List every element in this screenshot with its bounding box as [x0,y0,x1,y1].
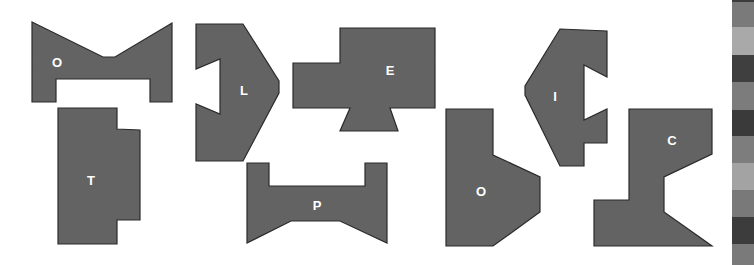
puzzle-piece-l[interactable]: L [196,24,279,161]
piece-shape[interactable] [293,28,435,131]
piece-label: O [52,55,62,70]
strip-segment [732,110,754,136]
piece-shape[interactable] [446,109,540,246]
piece-label: E [386,63,395,78]
strip-segment [732,82,754,110]
puzzle-piece-o-top[interactable]: O [32,22,172,102]
piece-shape[interactable] [525,29,607,166]
piece-shape[interactable] [594,109,712,246]
puzzle-piece-i[interactable]: I [525,29,607,166]
piece-shape[interactable] [58,108,140,244]
strip-segment [732,244,754,265]
strip-segment [732,27,754,55]
piece-label: O [476,184,486,199]
piece-label: T [87,173,95,188]
puzzle-canvas: OTLEPOIC [0,0,754,265]
strip-segment [732,217,754,244]
piece-label: I [553,89,557,104]
piece-shape[interactable] [196,24,279,161]
puzzle-piece-e[interactable]: E [293,28,435,131]
strip-segment [732,55,754,82]
puzzle-piece-t[interactable]: T [58,108,140,244]
strip-segment [732,2,754,27]
puzzle-pieces: OTLEPOIC [32,22,712,246]
gray-scale-strip [732,0,754,265]
piece-label: L [240,83,248,98]
puzzle-piece-o-bottom[interactable]: O [446,109,540,246]
strip-segment [732,136,754,163]
puzzle-piece-c[interactable]: C [594,109,712,246]
piece-label: P [313,198,322,213]
piece-label: C [667,133,677,148]
puzzle-piece-p[interactable]: P [247,163,387,243]
strip-segment [732,163,754,190]
strip-segment [732,190,754,217]
